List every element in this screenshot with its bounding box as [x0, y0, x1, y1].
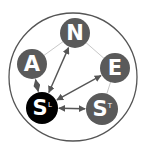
node-label: S [92, 97, 107, 121]
node-ST: ST [86, 93, 118, 125]
node-A: A [17, 49, 47, 79]
arrow-SL-A [36, 80, 39, 92]
node-label: A [24, 52, 41, 76]
node-superscript: T [107, 102, 113, 110]
node-label: N [66, 21, 84, 45]
aners-diagram: NAESLST [0, 0, 146, 154]
node-SL: SL [26, 92, 58, 124]
node-label: S [32, 96, 47, 120]
arrow-SL-N [49, 48, 69, 93]
node-label: E [108, 56, 122, 80]
node-N: N [60, 18, 90, 48]
node-superscript: L [48, 101, 52, 109]
node-E: E [100, 53, 130, 83]
